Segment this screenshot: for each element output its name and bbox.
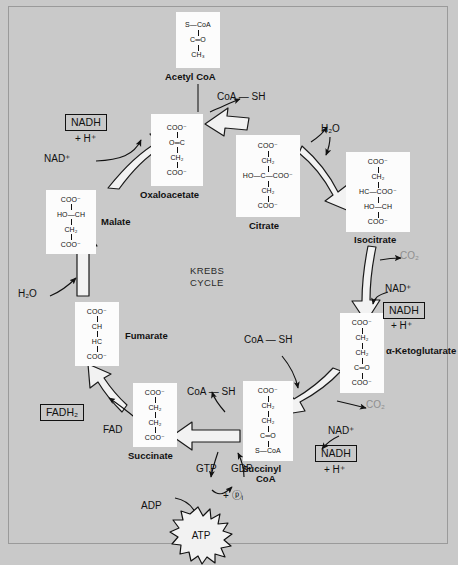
mol-line: COO⁻: [352, 319, 372, 328]
badge-nadh-akg: NADH: [315, 445, 357, 462]
mol-line: CH₂: [261, 157, 274, 166]
mol-line: CH₂: [148, 403, 161, 412]
arrow-h2o-in-fumarate: [50, 278, 76, 296]
label-phosphate: + ⓟᵢ: [223, 487, 243, 502]
molecule-box-alpha-ketoglutarate: COO⁻ CH₂ CH₂ C═O COO⁻: [340, 313, 384, 393]
arrow-citrate-to-isocitrate: [299, 146, 349, 211]
mol-line: COO⁻: [368, 218, 388, 227]
arrow-succinylcoa-to-succinate: [172, 422, 240, 450]
label-fad: FAD: [103, 424, 122, 435]
mol-line: CH₂: [355, 334, 368, 343]
mol-line: COO⁻: [352, 379, 372, 388]
arrow-co2-out-akg: [337, 401, 366, 408]
label-co2-akg: CO₂: [366, 399, 385, 410]
mol-line: COO⁻: [87, 352, 107, 361]
badge-fadh2: FADH₂: [40, 404, 84, 421]
mol-line: HO—C—COO⁻: [243, 172, 293, 181]
mol-line: COO⁻: [145, 433, 165, 442]
label-nad-plus-isocitrate: NAD⁺: [385, 283, 411, 294]
label-gdp: GDP: [231, 463, 253, 474]
arrow-adp-to-atp: [175, 498, 197, 516]
label-h2o-citrate: H₂O: [321, 123, 340, 134]
mol-line: C═O: [260, 432, 276, 441]
label-h-plus-oxaloacetate: + H⁺: [75, 133, 96, 144]
label-coa-sh-top: CoA — SH: [217, 91, 265, 102]
mol-line: HC—COO⁻: [359, 188, 397, 197]
mol-line: CH₂: [261, 402, 274, 411]
label-h-plus-isocitrate: + H⁺: [391, 320, 412, 331]
mol-line: COO⁻: [61, 195, 81, 204]
mol-line: O═C: [169, 138, 185, 147]
label-gtp: GTP: [196, 463, 217, 474]
mol-line: COO⁻: [258, 202, 278, 211]
badge-nadh-isocitrate: NADH: [383, 302, 425, 319]
molecule-box-succinate: COO⁻ CH₂ CH₂ COO⁻: [133, 383, 177, 447]
mol-line: CH₂: [148, 418, 161, 427]
mol-line: CH: [92, 322, 102, 331]
mol-line: CH₂: [64, 225, 77, 234]
molecule-box-succinyl-coa: COO⁻ CH₂ CH₂ C═O S—CoA: [243, 381, 293, 461]
mol-line: COO⁻: [61, 240, 81, 249]
molecule-box-malate: COO⁻ HO—CH CH₂ COO⁻: [46, 190, 96, 254]
label-h-plus-akg: + H⁺: [324, 464, 345, 475]
molecule-box-citrate: COO⁻ CH₂ HO—C—COO⁻ CH₂ COO⁻: [236, 135, 300, 217]
label-succinate: Succinate: [128, 450, 173, 461]
arrow-nad-to-nadh-oaa: [96, 140, 141, 161]
label-h2o-fumarate: H₂O: [18, 288, 37, 299]
arrow-h2o-out-citrate: [326, 137, 330, 155]
label-co2-isocitrate: CO₂: [400, 250, 419, 261]
mol-line: COO⁻: [258, 142, 278, 151]
label-acetyl-coa: Acetyl CoA: [165, 71, 216, 82]
mol-line: CH₂: [371, 173, 384, 182]
label-isocitrate: Isocitrate: [354, 234, 396, 245]
label-citrate: Citrate: [249, 220, 279, 231]
label-oxaloacetate: Oxaloacetate: [140, 189, 199, 200]
mol-line: COO⁻: [167, 168, 187, 177]
label-succinyl-coa-line2: CoA: [256, 473, 276, 484]
center-label-line2: CYCLE: [190, 277, 224, 289]
label-fumarate: Fumarate: [125, 330, 168, 341]
badge-nadh-oxaloacetate: NADH: [65, 114, 107, 131]
mol-line: C═O: [190, 36, 206, 45]
label-alpha-ketoglutarate: α-Ketoglutarate: [386, 345, 456, 356]
arrow-isocitrate-to-akg: [352, 246, 380, 322]
fadh2-text: FADH₂: [46, 406, 78, 418]
label-adp: ADP: [141, 500, 162, 511]
arrow-succinate-to-fumarate: [88, 364, 127, 412]
mol-line: CH₃: [191, 51, 204, 60]
mol-line: HC: [92, 337, 102, 346]
krebs-cycle-diagram: S—CoA C═O CH₃ Acetyl CoA COO⁻ O═C CH₂ CO…: [0, 0, 458, 565]
molecule-box-acetyl-coa: S—CoA C═O CH₃: [176, 12, 220, 68]
mol-line: C═O: [354, 364, 370, 373]
mol-line: CH₂: [170, 153, 183, 162]
label-coa-sh-succinyl: CoA — SH: [244, 334, 292, 345]
label-nad-plus-akg: NAD⁺: [328, 425, 354, 436]
mol-line: HO—CH: [364, 203, 392, 212]
mol-line: COO⁻: [87, 307, 107, 316]
center-label-line1: KREBS: [190, 265, 224, 277]
label-coa-sh-succinate: CoA — SH: [187, 386, 235, 397]
label-nad-plus-oxaloacetate: NAD⁺: [44, 153, 70, 164]
label-malate: Malate: [101, 216, 131, 227]
mol-line: COO⁻: [368, 158, 388, 167]
mol-line: S—CoA: [185, 21, 211, 30]
mol-line: HO—CH: [57, 210, 85, 219]
mol-line: CH₂: [355, 349, 368, 358]
arrow-co2-out-isocitrate: [380, 258, 401, 260]
mol-line: CH₂: [261, 187, 274, 196]
molecule-box-fumarate: COO⁻ CH HC COO⁻: [75, 302, 119, 366]
arrow-oaa-to-citrate: [205, 108, 249, 136]
mol-line: CH₂: [261, 417, 274, 426]
mol-line: COO⁻: [258, 387, 278, 396]
mol-line: S—CoA: [255, 447, 281, 456]
molecule-box-oxaloacetate: COO⁻ O═C CH₂ COO⁻: [151, 114, 203, 186]
molecule-box-isocitrate: COO⁻ CH₂ HC—COO⁻ HO—CH COO⁻: [346, 152, 410, 232]
mol-line: COO⁻: [167, 123, 187, 132]
mol-line: COO⁻: [145, 388, 165, 397]
